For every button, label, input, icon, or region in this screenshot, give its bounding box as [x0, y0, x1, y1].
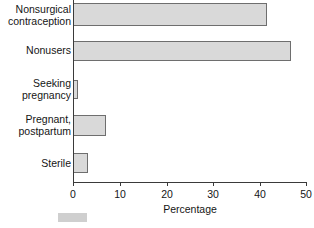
- x-tick-label-40: 40: [245, 188, 275, 200]
- x-tick-label-20: 20: [152, 188, 182, 200]
- x-tick-mark-10: [120, 182, 121, 186]
- x-tick-mark-20: [167, 182, 168, 186]
- bar-chart: Nonsurgical contraception Nonusers Seeki…: [0, 0, 314, 228]
- x-axis-title: Percentage: [73, 203, 307, 215]
- x-tick-label-0: 0: [58, 188, 88, 200]
- legend-swatch-artifact: [58, 213, 87, 222]
- y-axis-label-nonusers: Nonusers: [26, 44, 71, 56]
- y-axis-line: [73, 0, 74, 183]
- x-tick-label-30: 30: [198, 188, 228, 200]
- x-tick-label-10: 10: [105, 188, 135, 200]
- x-tick-label-50: 50: [291, 188, 314, 200]
- bar-nonusers: [73, 41, 291, 61]
- y-axis-label-seeking-pregnancy: Seeking pregnancy: [22, 77, 71, 101]
- x-tick-mark-0: [73, 182, 74, 186]
- y-axis-label-pregnant-postpartum: Pregnant, postpartum: [18, 113, 71, 137]
- x-axis-line: [73, 182, 307, 183]
- bar-sterile: [73, 153, 88, 173]
- y-axis-label-sterile: Sterile: [41, 157, 71, 169]
- y-axis-label-nonsurgical-contraception: Nonsurgical contraception: [8, 3, 71, 27]
- x-tick-mark-40: [260, 182, 261, 186]
- x-tick-mark-50: [306, 182, 307, 186]
- bar-pregnant-postpartum: [73, 115, 106, 136]
- bar-nonsurgical-contraception: [73, 3, 267, 26]
- x-tick-mark-30: [213, 182, 214, 186]
